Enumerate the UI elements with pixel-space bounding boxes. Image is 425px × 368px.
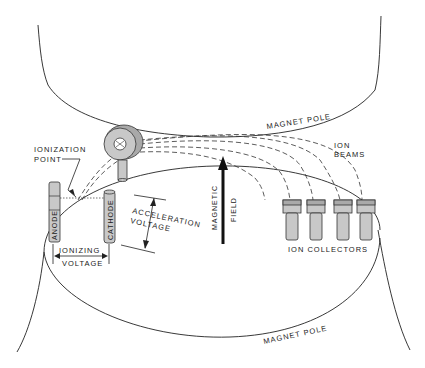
acceleration-voltage-dimension: ACCELERATION VOLTAGE	[121, 195, 202, 253]
ion-beams-label: ION BEAMS	[334, 141, 365, 159]
magnet-pole-top-label: MAGNET POLE	[266, 112, 332, 131]
ionizing-voltage-dimension: IONIZING VOLTAGE	[53, 244, 109, 268]
svg-text:POINT: POINT	[34, 155, 62, 164]
svg-text:IONIZATION: IONIZATION	[34, 145, 86, 154]
svg-text:IONIZING: IONIZING	[59, 246, 100, 255]
ion-collector-3	[334, 200, 352, 240]
ion-collector-4	[357, 200, 375, 240]
magnetic-field-arrow: MAGNETIC FIELD	[211, 156, 237, 244]
ion-collector-1	[283, 200, 301, 240]
cathode-label: CATHODE	[107, 199, 114, 240]
svg-text:FIELD: FIELD	[230, 197, 237, 222]
anode-label: ANODE	[51, 210, 58, 240]
svg-text:ION COLLECTORS: ION COLLECTORS	[288, 245, 368, 254]
svg-text:VOLTAGE: VOLTAGE	[62, 259, 103, 268]
svg-text:BEAMS: BEAMS	[334, 150, 365, 159]
svg-text:MAGNETIC: MAGNETIC	[211, 185, 218, 230]
mass-spectrometer-diagram: ANODE CATHODE IONIZATION POINT IONIZING …	[0, 0, 425, 368]
magnet-pole-bottom-label: MAGNET POLE	[263, 324, 328, 346]
ion-collector-2	[307, 200, 325, 240]
svg-text:ION: ION	[334, 141, 350, 150]
cathode: CATHODE	[104, 190, 115, 243]
anode: ANODE	[49, 182, 60, 242]
ion-source-ring	[104, 125, 143, 182]
ion-collectors: ION COLLECTORS	[283, 200, 375, 254]
